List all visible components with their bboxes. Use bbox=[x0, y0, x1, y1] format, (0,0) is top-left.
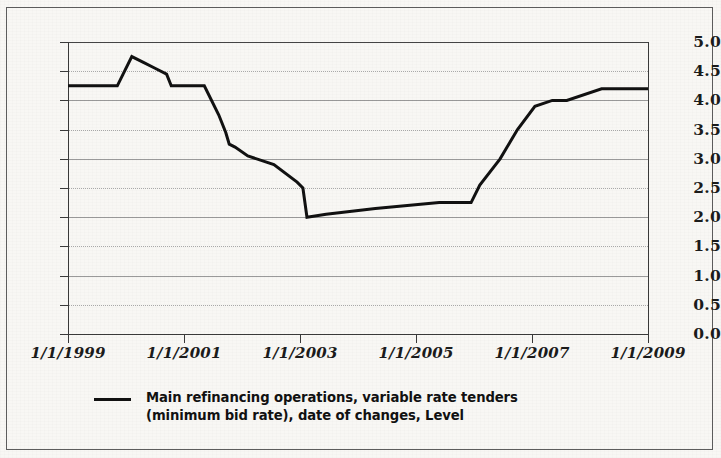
y-tick-label-4.0: 4.0 bbox=[669, 92, 721, 108]
y-tick-label-1.0: 1.0 bbox=[669, 268, 721, 284]
legend-label-line-1: Main refinancing operations, variable ra… bbox=[146, 389, 654, 407]
x-tick-label-1-1-2005: 1/1/2005 bbox=[364, 346, 468, 361]
x-tick-mark-1-1-2007 bbox=[532, 334, 533, 343]
chart-page: 5.04.54.03.53.02.52.01.51.00.50.0 1/1/19… bbox=[0, 0, 721, 458]
y-tick-label-2.5: 2.5 bbox=[669, 180, 721, 196]
legend-line-swatch bbox=[94, 398, 131, 401]
x-tick-mark-1-1-1999 bbox=[68, 334, 69, 343]
x-tick-mark-1-1-2009 bbox=[648, 334, 649, 343]
x-tick-mark-1-1-2005 bbox=[416, 334, 417, 343]
x-tick-label-1-1-2009: 1/1/2009 bbox=[596, 346, 700, 361]
y-tick-label-0.5: 0.5 bbox=[669, 297, 721, 313]
y-tick-label-4.5: 4.5 bbox=[669, 63, 721, 79]
y-tick-label-0.0: 0.0 bbox=[669, 326, 721, 342]
y-tick-label-5.0: 5.0 bbox=[669, 34, 721, 50]
plot-right-edge bbox=[648, 42, 649, 334]
chart-legend: Main refinancing operations, variable ra… bbox=[94, 389, 654, 425]
legend-label-line-2: (minimum bid rate), date of changes, Lev… bbox=[146, 407, 654, 425]
plot-area bbox=[68, 42, 648, 334]
x-tick-mark-1-1-2001 bbox=[184, 334, 185, 343]
series-polyline-main-refinancing-rate bbox=[68, 57, 648, 218]
y-tick-label-3.5: 3.5 bbox=[669, 122, 721, 138]
y-tick-label-2.0: 2.0 bbox=[669, 209, 721, 225]
x-tick-label-1-1-1999: 1/1/1999 bbox=[16, 346, 120, 361]
y-tick-label-3.0: 3.0 bbox=[669, 151, 721, 167]
x-tick-label-1-1-2003: 1/1/2003 bbox=[248, 346, 352, 361]
y-tick-label-1.5: 1.5 bbox=[669, 238, 721, 254]
x-axis-line bbox=[68, 334, 648, 335]
series-line-chart bbox=[68, 42, 648, 334]
x-tick-label-1-1-2001: 1/1/2001 bbox=[132, 346, 236, 361]
legend-label: Main refinancing operations, variable ra… bbox=[146, 389, 654, 425]
x-tick-mark-1-1-2003 bbox=[300, 334, 301, 343]
x-tick-label-1-1-2007: 1/1/2007 bbox=[480, 346, 584, 361]
